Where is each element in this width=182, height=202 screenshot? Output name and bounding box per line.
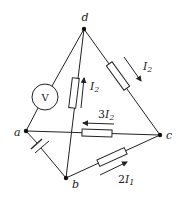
resistor-db [69,78,80,109]
node-label-c: c [166,129,172,142]
battery-icon [31,139,49,153]
node-label-d: d [81,11,88,24]
label-current-db: I2 [89,80,99,94]
node-d [82,27,86,31]
wire-a-battery [26,131,37,143]
label-current-dc: I2 [142,60,152,74]
circuit-svg: V I2 I2 3I2 2I1 d a b c [0,0,182,202]
arrow-current-ac [83,123,114,124]
node-label-a: a [14,126,21,139]
arrow-current-db [81,78,84,108]
node-a [24,129,28,133]
resistor-ac [82,129,112,137]
wire-battery-b [41,148,66,178]
resistor-dc [106,62,129,90]
node-b [64,176,68,180]
arrow-current-dc [124,57,141,81]
label-current-bc: 2I1 [118,173,134,187]
label-current-ac: 3I2 [98,108,114,122]
node-label-b: b [72,178,79,191]
voltmeter-icon: V [32,84,58,110]
circuit-diagram: V I2 I2 3I2 2I1 d a b c [0,0,182,202]
wire-a-voltmeter [26,108,38,131]
node-c [158,133,162,137]
wire-voltmeter-d [52,29,84,86]
voltmeter-label: V [40,92,49,103]
